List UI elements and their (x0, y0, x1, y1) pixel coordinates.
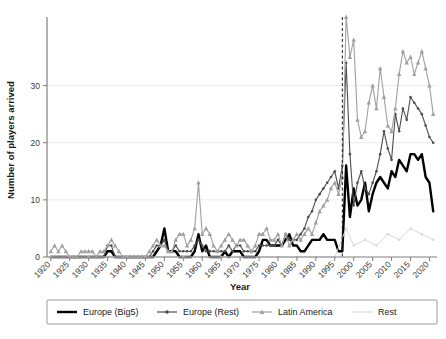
series-marker (197, 239, 200, 242)
series-marker (356, 181, 359, 184)
series-marker (315, 199, 318, 202)
series-marker (424, 124, 427, 127)
plot-background (0, 0, 446, 339)
series-marker (239, 244, 242, 247)
series-marker (152, 250, 155, 253)
series-marker (345, 227, 348, 230)
series-marker (303, 227, 306, 230)
series-marker (190, 250, 193, 253)
series-marker (258, 244, 261, 247)
series-marker (432, 141, 435, 144)
series-marker (409, 96, 412, 99)
legend-label: Rest (378, 307, 397, 317)
series-marker (326, 181, 329, 184)
series-marker (375, 170, 378, 173)
series-marker (417, 107, 420, 110)
series-marker (352, 204, 355, 207)
series-marker (265, 244, 268, 247)
chart-legend: Europe (Big5)Europe (Rest)Latin AmericaR… (47, 300, 437, 324)
series-marker (421, 113, 424, 116)
series-marker (163, 239, 166, 242)
series-marker (402, 107, 405, 110)
legend-label: Europe (Rest) (183, 307, 239, 317)
series-marker (273, 244, 276, 247)
series-marker (379, 153, 382, 156)
series-marker (349, 153, 352, 156)
series-marker (364, 239, 367, 242)
series-marker (383, 130, 386, 133)
legend-label: Latin America (278, 307, 333, 317)
series-marker (405, 119, 408, 122)
y-tick-label: 0 (35, 252, 40, 262)
series-marker (201, 244, 204, 247)
series-marker (288, 239, 291, 242)
series-marker (390, 159, 393, 162)
series-marker (360, 170, 363, 173)
series-marker (432, 239, 435, 242)
series-marker (156, 244, 159, 247)
series-marker (371, 181, 374, 184)
y-axis-title: Number of players arrived (5, 81, 16, 199)
line-chart-canvas: 0102030192019251930193519401945195019551… (0, 0, 446, 339)
series-marker (386, 233, 389, 236)
series-marker (193, 244, 196, 247)
legend-swatch-marker (165, 310, 169, 314)
series-marker (398, 239, 401, 242)
series-marker (307, 216, 310, 219)
chart-figure: 0102030192019251930193519401945195019551… (0, 0, 446, 339)
series-marker (231, 250, 234, 253)
series-marker (352, 244, 355, 247)
series-marker (398, 130, 401, 133)
series-marker (299, 233, 302, 236)
series-marker (368, 193, 371, 196)
series-marker (269, 244, 272, 247)
series-marker (174, 244, 177, 247)
y-tick-label: 20 (31, 138, 41, 148)
series-marker (262, 244, 265, 247)
legend-label: Europe (Big5) (83, 307, 139, 317)
series-marker (333, 170, 336, 173)
series-marker (220, 250, 223, 253)
series-marker (209, 250, 212, 253)
series-marker (212, 250, 215, 253)
series-marker (322, 187, 325, 190)
series-marker (296, 239, 299, 242)
series-marker (205, 250, 208, 253)
series-marker (409, 227, 412, 230)
series-marker (246, 250, 249, 253)
series-marker (386, 147, 389, 150)
series-marker (428, 136, 431, 139)
series-marker (182, 250, 185, 253)
series-marker (364, 187, 367, 190)
y-tick-label: 10 (31, 195, 41, 205)
series-marker (243, 250, 246, 253)
series-marker (318, 193, 321, 196)
series-marker (178, 250, 181, 253)
series-marker (254, 250, 257, 253)
series-marker (110, 244, 113, 247)
series-marker (413, 101, 416, 104)
series-marker (224, 250, 227, 253)
series-marker (311, 210, 314, 213)
y-tick-label: 30 (31, 81, 41, 91)
series-marker (375, 244, 378, 247)
series-marker (421, 233, 424, 236)
series-marker (277, 239, 280, 242)
series-marker (227, 244, 230, 247)
x-axis-title: Year (230, 281, 250, 292)
series-marker (186, 250, 189, 253)
series-marker (330, 176, 333, 179)
